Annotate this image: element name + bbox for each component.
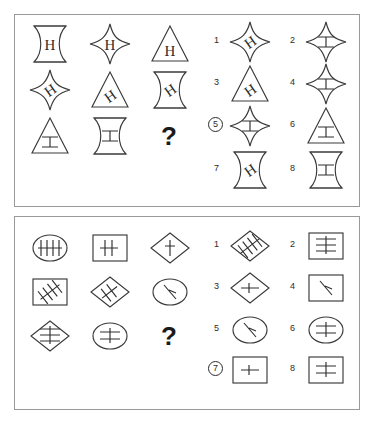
figure-diamond-one-horizontal bbox=[227, 265, 273, 311]
matrix-cell-2: H bbox=[87, 21, 133, 67]
answer-option-4[interactable]: 4 bbox=[303, 265, 349, 311]
figure-square-one-diagonal bbox=[303, 265, 349, 311]
option-number-1[interactable]: 1 bbox=[214, 35, 219, 45]
matrix-cell-6 bbox=[147, 269, 193, 315]
matrix-cell-4: H bbox=[27, 67, 73, 113]
figure-triangle-with-tilted-H: H bbox=[87, 67, 133, 113]
option-number-5[interactable]: 5 bbox=[214, 323, 219, 333]
matrix-cell-8 bbox=[87, 313, 133, 359]
figure-triangle-with-rotated-H bbox=[27, 113, 73, 159]
answer-option-7[interactable]: 7H bbox=[227, 147, 273, 193]
figure-star-with-upright-H: H bbox=[87, 21, 133, 67]
matrix-cell-1: H bbox=[27, 21, 73, 67]
matrix-cell-7 bbox=[27, 313, 73, 359]
answer-option-7[interactable]: 7 bbox=[227, 347, 273, 393]
answer-option-2[interactable]: 2 bbox=[303, 19, 349, 65]
option-number-2[interactable]: 2 bbox=[290, 239, 295, 249]
matrix-cell-4 bbox=[27, 269, 73, 315]
option-number-8[interactable]: 8 bbox=[290, 163, 295, 173]
option-number-4[interactable]: 4 bbox=[290, 77, 295, 87]
option-number-4[interactable]: 4 bbox=[290, 281, 295, 291]
figure-ellipse-three-vertical bbox=[27, 225, 73, 271]
answer-option-6[interactable]: 6 bbox=[303, 103, 349, 149]
figure-triangle-with-tilted-H: H bbox=[227, 61, 273, 107]
answer-option-8[interactable]: 8 bbox=[303, 147, 349, 193]
answer-option-3[interactable]: 3 bbox=[227, 265, 273, 311]
figure-triangle-with-upright-H: H bbox=[147, 21, 193, 67]
option-number-2[interactable]: 2 bbox=[290, 35, 295, 45]
matrix-cell-6: H bbox=[147, 67, 193, 113]
figure-star-with-rotated-H-alt bbox=[303, 61, 349, 107]
answer-option-8[interactable]: 8 bbox=[303, 347, 349, 393]
option-number-6[interactable]: 6 bbox=[290, 323, 295, 333]
svg-text:H: H bbox=[241, 161, 259, 180]
figure-star-with-rotated-H bbox=[303, 19, 349, 65]
figure-hourglass-with-rotated-H bbox=[303, 147, 349, 193]
option-number-5-selected[interactable]: 5 bbox=[208, 117, 223, 132]
figure-square-two-horizontal bbox=[303, 347, 349, 393]
figure-diamond-three-diagonal bbox=[227, 223, 273, 269]
option-number-7-selected[interactable]: 7 bbox=[208, 361, 223, 376]
figure-hourglass-with-upright-H: H bbox=[27, 21, 73, 67]
figure-star-with-tilted-H: H bbox=[27, 67, 73, 113]
question-mark: ? bbox=[161, 123, 177, 149]
figure-hourglass-with-tilted-H: H bbox=[227, 147, 273, 193]
matrix-cell-5: H bbox=[87, 67, 133, 113]
figure-ellipse-two-horizontal bbox=[87, 313, 133, 359]
figure-square-three-horizontal bbox=[303, 223, 349, 269]
svg-text:H: H bbox=[101, 87, 119, 106]
matrix-cell-2 bbox=[87, 225, 133, 271]
puzzle-panel-1: HHHHHH? 1H23H4567H8 bbox=[14, 14, 360, 207]
answer-option-1[interactable]: 1 bbox=[227, 223, 273, 269]
option-number-1[interactable]: 1 bbox=[214, 239, 219, 249]
figure-diamond-two-diagonal bbox=[87, 269, 133, 315]
svg-text:H: H bbox=[45, 37, 56, 53]
matrix-cell-3: H bbox=[147, 21, 193, 67]
svg-text:H: H bbox=[161, 81, 179, 100]
answer-option-5[interactable]: 5 bbox=[227, 103, 273, 149]
svg-text:H: H bbox=[165, 43, 176, 59]
answer-option-3[interactable]: 3H bbox=[227, 61, 273, 107]
option-number-3[interactable]: 3 bbox=[214, 281, 219, 291]
answer-option-1[interactable]: 1H bbox=[227, 19, 273, 65]
test-page: HHHHHH? 1H23H4567H8 ? 12345678 bbox=[0, 0, 374, 424]
option-number-8[interactable]: 8 bbox=[290, 363, 295, 373]
figure-hourglass-with-tilted-H: H bbox=[147, 67, 193, 113]
figure-ellipse-one-diagonal bbox=[147, 269, 193, 315]
figure-star-with-rotated-H-selected bbox=[227, 103, 273, 149]
figure-square-one-horizontal-selected bbox=[227, 347, 273, 393]
matrix-cell-3 bbox=[147, 225, 193, 271]
puzzle-panel-2: ? 12345678 bbox=[14, 216, 360, 410]
figure-diamond-three-horizontal bbox=[27, 313, 73, 359]
option-number-3[interactable]: 3 bbox=[214, 77, 219, 87]
figure-triangle-with-rotated-H bbox=[303, 103, 349, 149]
option-number-7[interactable]: 7 bbox=[214, 163, 219, 173]
matrix-cell-7 bbox=[27, 113, 73, 159]
figure-square-three-diagonal bbox=[27, 269, 73, 315]
answer-option-4[interactable]: 4 bbox=[303, 61, 349, 107]
figure-diamond-one-vertical bbox=[147, 225, 193, 271]
matrix-cell-8 bbox=[87, 113, 133, 159]
svg-text:H: H bbox=[241, 81, 259, 100]
matrix-cell-1 bbox=[27, 225, 73, 271]
figure-hourglass-with-rotated-H bbox=[87, 113, 133, 159]
svg-text:H: H bbox=[105, 37, 116, 53]
answer-option-2[interactable]: 2 bbox=[303, 223, 349, 269]
question-mark: ? bbox=[161, 323, 177, 349]
figure-square-two-vertical bbox=[87, 225, 133, 271]
matrix-cell-5 bbox=[87, 269, 133, 315]
option-number-6[interactable]: 6 bbox=[290, 119, 295, 129]
figure-star-with-tilted-H: H bbox=[227, 19, 273, 65]
